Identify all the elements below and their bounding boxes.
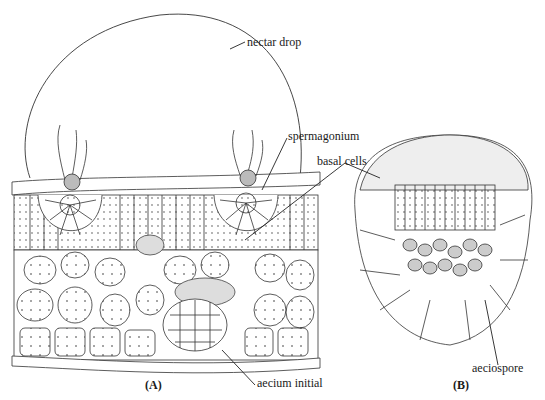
label-basal-cells: basal cells [317,155,367,168]
aecium-initial-shape [163,299,227,351]
figure-canvas [0,0,545,400]
panel-label-a: (A) [145,378,162,393]
label-nectar-drop: nectar drop [247,36,301,49]
panel-label-b: (B) [453,378,469,393]
label-aecium-initial: aecium initial [257,377,323,390]
aecium-section [355,135,532,345]
label-aeciospore: aeciospore [472,362,523,375]
label-spermagonium: spermagonium [288,130,359,143]
